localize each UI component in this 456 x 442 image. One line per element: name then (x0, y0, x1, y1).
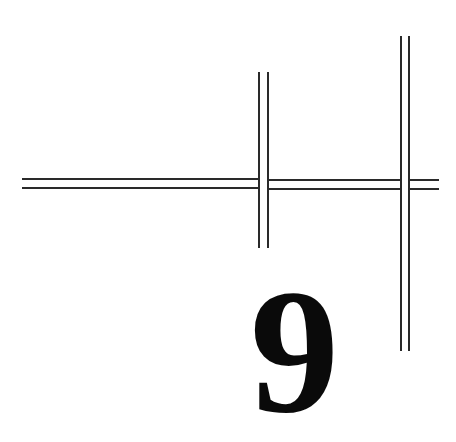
horizontal-rule-middle-top (269, 179, 400, 181)
horizontal-rule-right-bottom (410, 188, 439, 190)
horizontal-rule-middle-bottom (269, 188, 400, 190)
horizontal-rule-right-top (410, 179, 439, 181)
vertical-rule-2-left (400, 36, 402, 351)
horizontal-rule-left-top (22, 178, 258, 180)
vertical-rule-2-right (408, 36, 410, 351)
horizontal-rule-left-bottom (22, 187, 258, 189)
vertical-rule-1-right (267, 72, 269, 248)
vertical-rule-1-left (258, 72, 260, 248)
chapter-number: 9 (250, 262, 339, 440)
